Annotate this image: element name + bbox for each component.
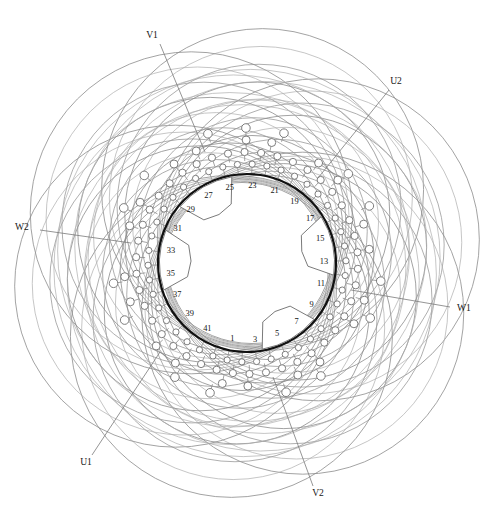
coil-node: [210, 353, 216, 359]
slot-number: 37: [173, 290, 181, 299]
slot-number: 7: [294, 317, 298, 326]
coil-node: [120, 316, 129, 325]
coil-node: [163, 317, 169, 323]
slot-number: 11: [317, 279, 325, 288]
terminal-lead-w2: [40, 230, 131, 243]
coil-node: [294, 371, 302, 379]
pole-shoe-right: [301, 217, 334, 276]
coil-node: [268, 139, 276, 147]
coil-node: [346, 217, 353, 224]
coil-node: [307, 336, 313, 342]
coil-node: [154, 219, 160, 225]
coil-node: [365, 202, 374, 211]
coil-node: [204, 129, 213, 138]
coil-node: [242, 124, 251, 133]
coil-node: [242, 136, 250, 144]
coil-node: [141, 302, 148, 309]
slot-number: 3: [253, 335, 257, 344]
coil-node: [321, 339, 328, 346]
coil-node: [341, 243, 347, 249]
coil-node: [192, 175, 198, 181]
slot-number: 31: [174, 224, 182, 233]
coil-node: [304, 181, 310, 187]
coil-node: [332, 327, 339, 334]
terminal-label-u2: U2: [390, 75, 402, 86]
end-turn-coil: [82, 177, 385, 480]
coil-node: [327, 314, 333, 320]
terminal-lead-v2: [273, 377, 313, 486]
coil-node: [334, 301, 340, 307]
coil-node: [258, 149, 265, 156]
coil-node: [171, 373, 180, 382]
coil-node: [146, 247, 152, 253]
coil-node: [224, 357, 230, 363]
coil-node: [121, 273, 129, 281]
coil-node: [170, 160, 178, 168]
terminal-label-v2: V2: [312, 487, 324, 498]
coil-node: [133, 270, 140, 277]
coil-node: [208, 154, 215, 161]
coil-node: [126, 298, 134, 306]
coil-node: [241, 148, 248, 155]
slot-number: 17: [306, 214, 314, 223]
coil-node: [183, 352, 190, 359]
slot-number: 39: [186, 309, 194, 318]
coil-node: [109, 279, 118, 288]
coil-node: [149, 317, 156, 324]
coil-node: [224, 150, 231, 157]
coil-node: [239, 359, 245, 365]
coil-node: [193, 160, 200, 167]
slot-number: 25: [225, 183, 233, 192]
slot-number: 41: [203, 324, 211, 333]
end-turn-coil: [102, 29, 424, 351]
coil-node: [220, 164, 226, 170]
coil-node: [249, 161, 255, 167]
coil-node: [308, 350, 315, 357]
coil-node: [254, 358, 260, 364]
coil-node: [360, 220, 368, 228]
coil-node: [280, 129, 289, 138]
slot-number: 33: [167, 246, 175, 255]
coil-node: [262, 369, 269, 376]
coil-node: [135, 237, 142, 244]
slot-number: 5: [275, 329, 279, 338]
coil-node: [179, 169, 186, 176]
coil-node: [173, 329, 179, 335]
coil-node: [318, 326, 324, 332]
coil-node: [278, 167, 284, 173]
slot-number: 35: [167, 269, 175, 278]
coil-node: [339, 287, 345, 293]
winding-diagram-canvas: 1357911131517192123252729313335373941 V1…: [0, 0, 494, 530]
coil-node: [268, 356, 274, 362]
slot-number: 21: [270, 186, 278, 195]
slot-number: 1: [230, 334, 234, 343]
end-turn-arcs: [15, 29, 480, 498]
coil-node: [376, 277, 385, 286]
terminal-label-u1: U1: [80, 456, 92, 467]
coil-node: [136, 198, 144, 206]
coil-node: [213, 366, 220, 373]
coil-node: [156, 305, 162, 311]
coil-node: [366, 314, 375, 323]
coil-node: [294, 358, 301, 365]
coil-node: [158, 331, 165, 338]
coil-node: [278, 365, 285, 372]
coil-node: [244, 382, 252, 390]
stator-winding-svg: 1357911131517192123252729313335373941 V1…: [0, 0, 494, 530]
coil-node: [206, 389, 215, 398]
coil-node: [229, 370, 236, 377]
coil-node: [341, 313, 348, 320]
slot-number: 27: [204, 191, 212, 200]
coil-node: [170, 342, 177, 349]
coil-node: [133, 254, 140, 261]
coil-node: [196, 347, 202, 353]
coil-node: [218, 379, 226, 387]
terminal-label-v1: V1: [146, 29, 158, 40]
coil-node: [295, 345, 301, 351]
coil-node: [145, 262, 151, 268]
coil-node: [274, 153, 281, 160]
coil-node: [348, 298, 355, 305]
coil-node: [184, 339, 190, 345]
coil-node: [316, 358, 324, 366]
pole-shoe-left: [159, 230, 191, 290]
